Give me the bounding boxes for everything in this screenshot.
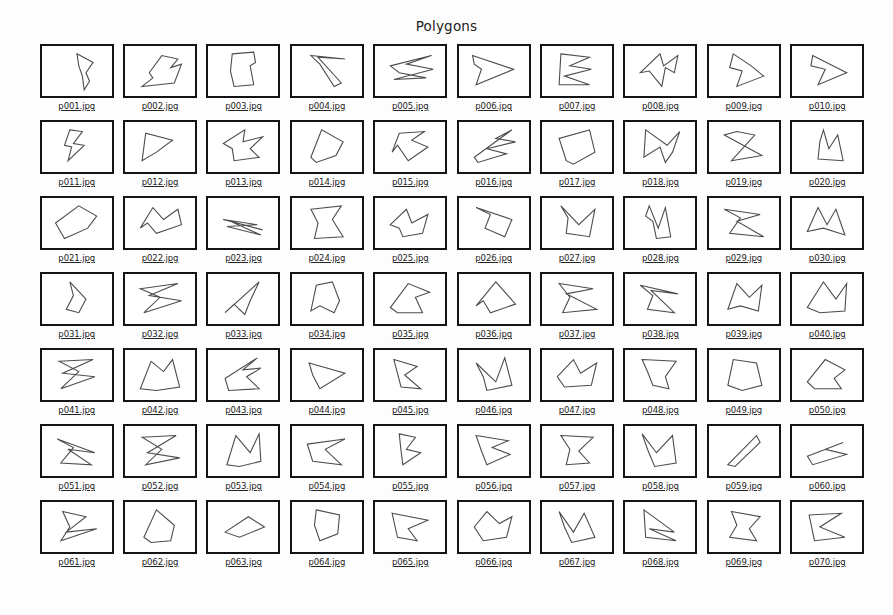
thumbnail-link[interactable]: p018.jpg (642, 177, 679, 187)
thumbnail-link[interactable]: p049.jpg (725, 405, 762, 415)
thumbnail-link[interactable]: p017.jpg (559, 177, 596, 187)
thumbnail-link[interactable]: p014.jpg (309, 177, 346, 187)
thumbnail-link[interactable]: p009.jpg (725, 101, 762, 111)
polygon-thumbnail[interactable] (290, 348, 364, 402)
thumbnail-link[interactable]: p062.jpg (142, 557, 179, 567)
thumbnail-link[interactable]: p035.jpg (392, 329, 429, 339)
thumbnail-link[interactable]: p029.jpg (725, 253, 762, 263)
polygon-thumbnail[interactable] (206, 500, 280, 554)
thumbnail-link[interactable]: p027.jpg (559, 253, 596, 263)
thumbnail-link[interactable]: p031.jpg (58, 329, 95, 339)
thumbnail-link[interactable]: p012.jpg (142, 177, 179, 187)
thumbnail-link[interactable]: p067.jpg (559, 557, 596, 567)
polygon-thumbnail[interactable] (790, 500, 864, 554)
polygon-thumbnail[interactable] (623, 500, 697, 554)
polygon-thumbnail[interactable] (540, 120, 614, 174)
polygon-thumbnail[interactable] (40, 348, 114, 402)
polygon-thumbnail[interactable] (707, 500, 781, 554)
polygon-thumbnail[interactable] (206, 424, 280, 478)
polygon-thumbnail[interactable] (373, 500, 447, 554)
polygon-thumbnail[interactable] (540, 348, 614, 402)
thumbnail-link[interactable]: p025.jpg (392, 253, 429, 263)
polygon-thumbnail[interactable] (40, 424, 114, 478)
polygon-thumbnail[interactable] (540, 500, 614, 554)
thumbnail-link[interactable]: p053.jpg (225, 481, 262, 491)
polygon-thumbnail[interactable] (290, 500, 364, 554)
thumbnail-link[interactable]: p005.jpg (392, 101, 429, 111)
thumbnail-link[interactable]: p004.jpg (309, 101, 346, 111)
thumbnail-link[interactable]: p011.jpg (58, 177, 95, 187)
polygon-thumbnail[interactable] (206, 272, 280, 326)
thumbnail-link[interactable]: p020.jpg (809, 177, 846, 187)
thumbnail-link[interactable]: p038.jpg (642, 329, 679, 339)
thumbnail-link[interactable]: p043.jpg (225, 405, 262, 415)
polygon-thumbnail[interactable] (40, 120, 114, 174)
polygon-thumbnail[interactable] (290, 272, 364, 326)
polygon-thumbnail[interactable] (457, 272, 531, 326)
polygon-thumbnail[interactable] (123, 120, 197, 174)
thumbnail-link[interactable]: p063.jpg (225, 557, 262, 567)
thumbnail-link[interactable]: p041.jpg (58, 405, 95, 415)
thumbnail-link[interactable]: p051.jpg (58, 481, 95, 491)
thumbnail-link[interactable]: p033.jpg (225, 329, 262, 339)
polygon-thumbnail[interactable] (540, 272, 614, 326)
polygon-thumbnail[interactable] (206, 196, 280, 250)
polygon-thumbnail[interactable] (457, 196, 531, 250)
thumbnail-link[interactable]: p068.jpg (642, 557, 679, 567)
polygon-thumbnail[interactable] (707, 120, 781, 174)
polygon-thumbnail[interactable] (206, 120, 280, 174)
polygon-thumbnail[interactable] (290, 424, 364, 478)
thumbnail-link[interactable]: p037.jpg (559, 329, 596, 339)
polygon-thumbnail[interactable] (623, 272, 697, 326)
thumbnail-link[interactable]: p010.jpg (809, 101, 846, 111)
polygon-thumbnail[interactable] (40, 44, 114, 98)
polygon-thumbnail[interactable] (623, 196, 697, 250)
thumbnail-link[interactable]: p032.jpg (142, 329, 179, 339)
thumbnail-link[interactable]: p069.jpg (725, 557, 762, 567)
thumbnail-link[interactable]: p065.jpg (392, 557, 429, 567)
polygon-thumbnail[interactable] (373, 348, 447, 402)
polygon-thumbnail[interactable] (457, 120, 531, 174)
thumbnail-link[interactable]: p066.jpg (475, 557, 512, 567)
thumbnail-link[interactable]: p048.jpg (642, 405, 679, 415)
polygon-thumbnail[interactable] (290, 196, 364, 250)
thumbnail-link[interactable]: p060.jpg (809, 481, 846, 491)
thumbnail-link[interactable]: p057.jpg (559, 481, 596, 491)
thumbnail-link[interactable]: p006.jpg (475, 101, 512, 111)
thumbnail-link[interactable]: p044.jpg (309, 405, 346, 415)
thumbnail-link[interactable]: p054.jpg (309, 481, 346, 491)
polygon-thumbnail[interactable] (373, 120, 447, 174)
polygon-thumbnail[interactable] (707, 272, 781, 326)
polygon-thumbnail[interactable] (790, 120, 864, 174)
polygon-thumbnail[interactable] (790, 44, 864, 98)
thumbnail-link[interactable]: p040.jpg (809, 329, 846, 339)
thumbnail-link[interactable]: p002.jpg (142, 101, 179, 111)
thumbnail-link[interactable]: p070.jpg (809, 557, 846, 567)
polygon-thumbnail[interactable] (457, 44, 531, 98)
polygon-thumbnail[interactable] (790, 272, 864, 326)
thumbnail-link[interactable]: p024.jpg (309, 253, 346, 263)
thumbnail-link[interactable]: p036.jpg (475, 329, 512, 339)
thumbnail-link[interactable]: p030.jpg (809, 253, 846, 263)
polygon-thumbnail[interactable] (707, 196, 781, 250)
polygon-thumbnail[interactable] (373, 196, 447, 250)
polygon-thumbnail[interactable] (40, 272, 114, 326)
thumbnail-link[interactable]: p050.jpg (809, 405, 846, 415)
thumbnail-link[interactable]: p055.jpg (392, 481, 429, 491)
thumbnail-link[interactable]: p019.jpg (725, 177, 762, 187)
polygon-thumbnail[interactable] (206, 44, 280, 98)
thumbnail-link[interactable]: p003.jpg (225, 101, 262, 111)
polygon-thumbnail[interactable] (540, 196, 614, 250)
thumbnail-link[interactable]: p013.jpg (225, 177, 262, 187)
thumbnail-link[interactable]: p042.jpg (142, 405, 179, 415)
polygon-thumbnail[interactable] (290, 44, 364, 98)
polygon-thumbnail[interactable] (790, 424, 864, 478)
thumbnail-link[interactable]: p039.jpg (725, 329, 762, 339)
thumbnail-link[interactable]: p058.jpg (642, 481, 679, 491)
polygon-thumbnail[interactable] (123, 424, 197, 478)
polygon-thumbnail[interactable] (457, 500, 531, 554)
polygon-thumbnail[interactable] (457, 348, 531, 402)
polygon-thumbnail[interactable] (707, 424, 781, 478)
polygon-thumbnail[interactable] (123, 44, 197, 98)
thumbnail-link[interactable]: p007.jpg (559, 101, 596, 111)
